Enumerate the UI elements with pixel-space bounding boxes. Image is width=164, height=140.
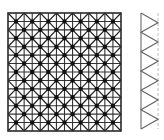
intersection-dot bbox=[87, 95, 91, 99]
intersection-dot bbox=[22, 45, 26, 49]
intersection-dot bbox=[62, 120, 66, 124]
intersection-dot bbox=[111, 104, 115, 108]
intersection-dot bbox=[78, 53, 82, 57]
diagram-canvas bbox=[0, 0, 164, 140]
intersection-dot bbox=[95, 120, 99, 124]
intersection-dot bbox=[30, 120, 34, 124]
intersection-dot bbox=[103, 28, 107, 32]
intersection-dot bbox=[87, 78, 91, 82]
intersection-dot bbox=[70, 28, 74, 32]
intersection-dot bbox=[95, 87, 99, 91]
intersection-dot bbox=[70, 112, 74, 116]
intersection-dot bbox=[14, 70, 18, 74]
intersection-dot bbox=[38, 61, 42, 65]
intersection-dot bbox=[70, 95, 74, 99]
intersection-dot bbox=[14, 120, 18, 124]
intersection-dot bbox=[111, 19, 115, 23]
intersection-dot bbox=[46, 87, 50, 91]
intersection-dot bbox=[95, 70, 99, 74]
intersection-dot bbox=[70, 45, 74, 49]
intersection-dot bbox=[78, 19, 82, 23]
intersection-dot bbox=[46, 104, 50, 108]
intersection-dot bbox=[14, 104, 18, 108]
intersection-dot bbox=[95, 19, 99, 23]
zigzag-strip-panel bbox=[141, 13, 158, 129]
intersection-dot bbox=[54, 45, 58, 49]
intersection-dot bbox=[46, 36, 50, 40]
intersection-dot bbox=[38, 45, 42, 49]
intersection-dot bbox=[46, 19, 50, 23]
intersection-dot bbox=[30, 53, 34, 57]
intersection-dot bbox=[78, 70, 82, 74]
intersection-dot bbox=[22, 28, 26, 32]
intersection-dot bbox=[14, 53, 18, 57]
intersection-dot bbox=[111, 36, 115, 40]
intersection-dot bbox=[22, 61, 26, 65]
intersection-dot bbox=[38, 78, 42, 82]
intersection-dot bbox=[111, 70, 115, 74]
intersection-dot bbox=[62, 19, 66, 23]
intersection-dot bbox=[46, 53, 50, 57]
intersection-dot bbox=[103, 45, 107, 49]
intersection-dot bbox=[22, 95, 26, 99]
intersection-dot bbox=[30, 70, 34, 74]
intersection-dot bbox=[30, 19, 34, 23]
intersection-dot bbox=[78, 104, 82, 108]
intersection-dot bbox=[103, 112, 107, 116]
intersection-dot bbox=[103, 78, 107, 82]
grid-pattern-panel bbox=[8, 13, 121, 131]
intersection-dot bbox=[87, 28, 91, 32]
intersection-dot bbox=[54, 28, 58, 32]
intersection-dot bbox=[38, 112, 42, 116]
intersection-dot bbox=[22, 78, 26, 82]
intersection-dot bbox=[30, 36, 34, 40]
intersection-dot bbox=[78, 120, 82, 124]
intersection-dot bbox=[30, 104, 34, 108]
intersection-dot bbox=[111, 87, 115, 91]
intersection-dot bbox=[14, 19, 18, 23]
intersection-dot bbox=[78, 87, 82, 91]
intersection-dot bbox=[62, 53, 66, 57]
intersection-dot bbox=[111, 53, 115, 57]
intersection-dot bbox=[38, 95, 42, 99]
intersection-dot bbox=[30, 87, 34, 91]
intersection-dot bbox=[95, 53, 99, 57]
intersection-dot bbox=[14, 36, 18, 40]
intersection-dot bbox=[54, 112, 58, 116]
intersection-dot bbox=[54, 78, 58, 82]
intersection-dot bbox=[22, 112, 26, 116]
intersection-dot bbox=[70, 78, 74, 82]
intersection-dot bbox=[87, 45, 91, 49]
intersection-dot bbox=[103, 95, 107, 99]
zigzag-line bbox=[141, 13, 158, 129]
intersection-dot bbox=[70, 61, 74, 65]
intersection-dot bbox=[46, 70, 50, 74]
intersection-dot bbox=[103, 61, 107, 65]
intersection-dot bbox=[62, 36, 66, 40]
intersection-dot bbox=[87, 112, 91, 116]
intersection-dot bbox=[46, 120, 50, 124]
intersection-dot bbox=[87, 61, 91, 65]
intersection-dot bbox=[62, 104, 66, 108]
intersection-dot bbox=[95, 104, 99, 108]
intersection-dot bbox=[95, 36, 99, 40]
intersection-dot bbox=[14, 87, 18, 91]
intersection-dot bbox=[62, 87, 66, 91]
intersection-dot bbox=[38, 28, 42, 32]
intersection-dot bbox=[54, 95, 58, 99]
intersection-dot bbox=[78, 36, 82, 40]
intersection-dot bbox=[54, 61, 58, 65]
intersection-dot bbox=[111, 120, 115, 124]
intersection-dot bbox=[62, 70, 66, 74]
